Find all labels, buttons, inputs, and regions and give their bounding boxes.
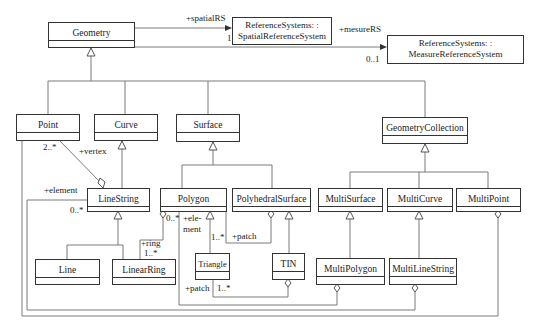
label-element-role-linestring: +element [44, 186, 78, 195]
label-element-mult-linestring: 0..* [70, 206, 84, 215]
class-surface[interactable]: Surface [176, 114, 240, 142]
label-ring-mult: 1..* [144, 249, 158, 258]
ref-line1: ReferenceSystems: : [388, 38, 523, 49]
class-name: GeometryCollection [383, 118, 467, 136]
class-polygon[interactable]: Polygon [160, 188, 227, 212]
class-tin[interactable]: TIN [272, 253, 305, 280]
label-element-role-polygon-1: +ele- [183, 214, 202, 223]
generalization-arrow-icon [87, 48, 95, 56]
class-name: MultiPolygon [317, 259, 384, 277]
class-name: Curve [95, 115, 157, 133]
ref-line2: MeasureReferenceSystem [388, 49, 523, 60]
label-vertex-mult: 2..* [43, 143, 57, 152]
class-name: Polygon [161, 189, 226, 207]
label-patch-role-polyhedral: +patch [232, 232, 257, 241]
class-triangle[interactable]: Triangle [195, 253, 230, 280]
class-name: Geometry [49, 23, 134, 41]
ref-line1: ReferenceSystems: : [233, 20, 331, 31]
class-line[interactable]: Line [35, 259, 100, 285]
class-name: MultiPoint [457, 189, 520, 207]
label-triangle-mult: 1..* [211, 233, 225, 242]
class-name: MultiSurface [319, 189, 382, 207]
arrow-head-icon [225, 25, 232, 31]
label-patch-mult-tin: 1..* [217, 284, 231, 293]
class-polyhedral-surface[interactable]: PolyhedralSurface [232, 188, 311, 212]
class-geometry-collection[interactable]: GeometryCollection [382, 117, 468, 144]
class-point[interactable]: Point [16, 114, 80, 141]
class-name: MultiCurve [388, 189, 452, 207]
aggregation-diamond-icon [98, 178, 105, 188]
label-polygon-ring-mult: 0..* [166, 214, 180, 223]
class-curve[interactable]: Curve [94, 114, 158, 141]
class-linear-ring[interactable]: LinearRing [112, 259, 176, 285]
label-spatial-rs-role: +spatialRS [186, 14, 226, 23]
label-measure-rs-role: +mesureRS [339, 25, 381, 34]
class-multi-polygon[interactable]: MultiPolygon [316, 258, 385, 285]
class-name: Line [36, 260, 99, 278]
label-patch-role-tin: +patch [185, 284, 210, 293]
class-name: Triangle [196, 254, 229, 272]
class-measure-reference-system[interactable]: ReferenceSystems: : MeasureReferenceSyst… [387, 35, 524, 64]
class-spatial-reference-system[interactable]: ReferenceSystems: : SpatialReferenceSyst… [232, 17, 332, 45]
ref-line2: SpatialReferenceSystem [233, 31, 331, 42]
label-spatial-rs-mult: 1 [227, 34, 232, 43]
class-name: Point [17, 115, 79, 133]
label-element-role-polygon-2: ment [183, 225, 201, 234]
class-name: TIN [273, 254, 304, 272]
label-measure-rs-mult: 0..1 [366, 55, 380, 64]
class-multi-curve[interactable]: MultiCurve [387, 188, 453, 212]
class-multi-surface[interactable]: MultiSurface [318, 188, 383, 212]
class-name: LineString [88, 189, 149, 207]
class-name: LinearRing [113, 260, 175, 278]
class-geometry[interactable]: Geometry [48, 22, 135, 48]
class-multi-line-string[interactable]: MultiLineString [389, 258, 457, 285]
class-multi-point[interactable]: MultiPoint [456, 188, 521, 212]
class-line-string[interactable]: LineString [87, 188, 150, 212]
label-ring-role: +ring [141, 239, 161, 248]
class-name: Surface [177, 115, 239, 133]
class-name: MultiLineString [390, 259, 456, 277]
label-vertex-role: +vertex [79, 147, 107, 156]
class-name: PolyhedralSurface [233, 189, 310, 207]
